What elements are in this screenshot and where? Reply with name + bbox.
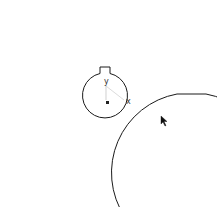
drawing-canvas[interactable]: y x [0, 0, 217, 207]
x-axis-line [106, 86, 124, 100]
x-axis-label: x [126, 97, 131, 106]
cam-outer-profile[interactable] [112, 94, 217, 207]
arrow-cursor-icon [161, 116, 167, 126]
y-axis-label: y [104, 77, 109, 86]
bore-with-keyway[interactable] [83, 67, 128, 118]
origin-marker-icon [106, 101, 109, 104]
